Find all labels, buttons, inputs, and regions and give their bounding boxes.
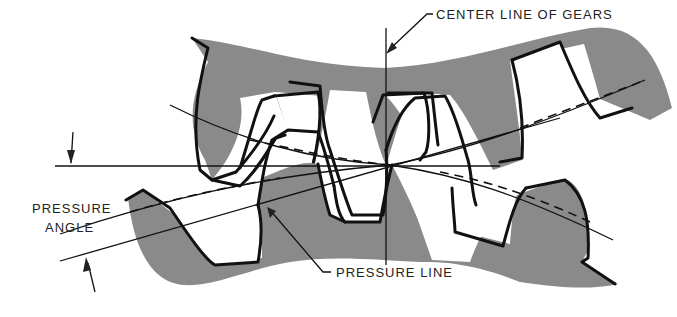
center-line-leader [386, 14, 433, 54]
pressure-angle-label-1: PRESSURE [32, 201, 112, 216]
arrow-down-icon [67, 150, 75, 164]
center-line-label: CENTER LINE OF GEARS [436, 7, 613, 22]
gear-mesh-diagram: CENTER LINE OF GEARS PRESSURE ANGLE PRES… [0, 0, 677, 317]
arrow-up-icon [83, 257, 91, 272]
pressure-angle-label-2: ANGLE [45, 220, 94, 235]
pressure-line-label: PRESSURE LINE [336, 265, 453, 280]
